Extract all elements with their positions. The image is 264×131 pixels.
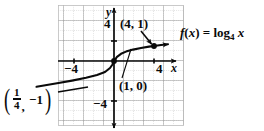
y-tick-label-negative-4: −4: [93, 97, 107, 110]
log-operator: log: [213, 25, 230, 40]
function-close-paren: ): [195, 25, 199, 40]
point-annotation-quarter-negative-1: (14, −1): [2, 84, 53, 114]
fraction-denominator: 4: [13, 100, 21, 111]
fraction-numerator: 1: [13, 87, 21, 98]
point-4-1: [151, 43, 157, 49]
x-tick-label-4: 4: [156, 62, 163, 75]
point-annotation-1-0: (1, 0): [119, 79, 147, 92]
log-base: 4: [230, 32, 235, 42]
function-equals-sign: =: [203, 25, 210, 40]
second-coordinate: −1: [29, 93, 43, 106]
x-axis-label: x: [171, 62, 177, 74]
point-annotation-4-1: (4, 1): [120, 17, 148, 30]
coordinate-comma: ,: [22, 100, 25, 114]
figure-logarithmic-graph: y x 4 −4 −4 4 (4, 1) (1, 0) f(x) = log4 …: [0, 0, 264, 131]
fraction-one-fourth: 14: [13, 87, 21, 111]
y-tick-label-4: 4: [104, 17, 111, 30]
log-variable: x: [238, 25, 245, 40]
open-paren: (: [4, 84, 10, 114]
function-expression-label: f(x) = log4 x: [180, 26, 244, 42]
x-tick-label-negative-4: −4: [64, 62, 78, 75]
point-1-0: [111, 58, 117, 64]
close-paren: ): [45, 84, 51, 114]
